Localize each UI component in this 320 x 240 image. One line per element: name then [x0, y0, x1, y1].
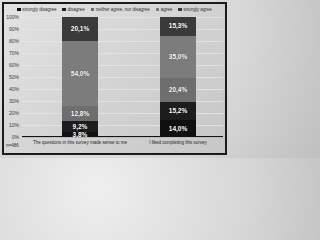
bar-segment: 15,3%: [160, 17, 196, 35]
category-label: I liked completing this survey: [123, 140, 227, 145]
y-tick-label: 50%: [4, 74, 19, 80]
bar-segment: 14,0%: [160, 120, 196, 137]
segment-value-label: 15,2%: [169, 108, 187, 114]
segment-value-label: 3,8%: [73, 132, 88, 138]
segment-value-label: 54,0%: [71, 71, 89, 77]
y-tick-label: 0%: [4, 134, 19, 140]
legend-item-1: disagree: [62, 7, 84, 12]
chart-frame: strongly disagreedisagreeneither agree, …: [2, 2, 227, 155]
legend-label: disagree: [67, 7, 84, 12]
legend-item-0: strongly disagree: [17, 7, 56, 12]
y-tick-label: 70%: [4, 50, 19, 56]
bar-segment: 15,2%: [160, 102, 196, 120]
segment-value-label: 20,4%: [169, 87, 187, 93]
y-tick-label: 60%: [4, 62, 19, 68]
y-tick-label: 90%: [4, 26, 19, 32]
y-tick-label: 30%: [4, 98, 19, 104]
y-tick-label: 20%: [4, 110, 19, 116]
bar-segment: 20,1%: [62, 17, 98, 41]
plot-area: 3,8%9,2%12,8%54,0%20,1%14,0%15,2%20,4%35…: [22, 17, 223, 137]
y-tick-label: 80%: [4, 38, 19, 44]
segment-value-label: 9,2%: [73, 124, 88, 130]
bar-segment: 20,4%: [160, 78, 196, 102]
legend-item-3: agree: [156, 7, 173, 12]
stacked-bar-1: 14,0%15,2%20,4%35,0%15,3%: [160, 17, 196, 137]
bar-segment: 3,8%: [62, 132, 98, 137]
sample-size-annotation: n=486: [6, 143, 19, 148]
legend-item-2: neither agree, nor disagree: [91, 7, 150, 12]
segment-value-label: 35,0%: [169, 54, 187, 60]
legend-label: neither agree, nor disagree: [96, 7, 150, 12]
y-tick-label: 100%: [4, 14, 19, 20]
legend-label: agree: [161, 7, 173, 12]
gridline: [22, 137, 223, 138]
bar-segment: 35,0%: [160, 36, 196, 78]
segment-value-label: 12,8%: [71, 111, 89, 117]
legend-marker-icon: [62, 8, 66, 12]
legend-marker-icon: [91, 8, 95, 12]
bar-segment: 54,0%: [62, 41, 98, 106]
legend-label: strongly disagree: [22, 7, 56, 12]
category-label: The questions in this survey made sense …: [25, 140, 135, 145]
segment-value-label: 14,0%: [169, 126, 187, 132]
y-tick-label: 10%: [4, 122, 19, 128]
legend-marker-icon: [156, 8, 160, 12]
legend-item-4: strongly agree: [178, 7, 212, 12]
segment-value-label: 15,3%: [169, 23, 187, 29]
legend-marker-icon: [178, 8, 182, 12]
bar-segment: 12,8%: [62, 106, 98, 121]
y-tick-label: 40%: [4, 86, 19, 92]
chart-legend: strongly disagreedisagreeneither agree, …: [4, 7, 225, 12]
legend-marker-icon: [17, 8, 21, 12]
segment-value-label: 20,1%: [71, 26, 89, 32]
stacked-bar-0: 3,8%9,2%12,8%54,0%20,1%: [62, 17, 98, 137]
legend-label: strongly agree: [183, 7, 212, 12]
